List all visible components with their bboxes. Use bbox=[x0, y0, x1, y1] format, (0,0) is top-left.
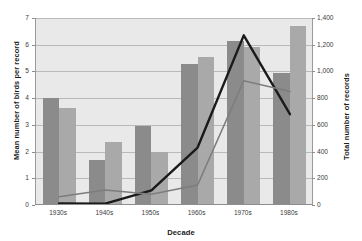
y-axis-right-tickmark bbox=[312, 71, 315, 72]
y-axis-left-tickmark bbox=[32, 152, 35, 153]
y-axis-right-tick-label: 200 bbox=[317, 174, 347, 181]
y-axis-left-tickmark bbox=[32, 205, 35, 206]
y-axis-right-tick-label: 0 bbox=[317, 201, 347, 208]
line-group bbox=[36, 18, 313, 205]
y-axis-left-tickmark bbox=[32, 178, 35, 179]
y-axis-left-tickmark bbox=[32, 18, 35, 19]
y-axis-right-tick-label: 1,400 bbox=[317, 14, 347, 21]
y-axis-left-tick-label: 1 bbox=[3, 174, 29, 181]
line-series bbox=[59, 81, 290, 197]
x-axis-title: Decade bbox=[0, 228, 362, 237]
y-axis-right-tickmark bbox=[312, 98, 315, 99]
y-axis-left-tick-label: 5 bbox=[3, 67, 29, 74]
x-axis-line bbox=[35, 204, 313, 205]
x-axis-tick-label: 1960s bbox=[174, 209, 220, 216]
y-axis-right-tickmark bbox=[312, 178, 315, 179]
y-axis-right-line bbox=[312, 18, 313, 205]
x-axis-tick-label: 1940s bbox=[81, 209, 127, 216]
x-axis-tick-label: 1950s bbox=[127, 209, 173, 216]
x-axis-tick-label: 1980s bbox=[266, 209, 312, 216]
y-axis-right-tick-label: 800 bbox=[317, 94, 347, 101]
y-axis-right-tick-label: 600 bbox=[317, 121, 347, 128]
plot-area bbox=[35, 18, 312, 205]
y-axis-right-tickmark bbox=[312, 152, 315, 153]
line-series bbox=[59, 35, 290, 203]
y-axis-right-tickmark bbox=[312, 125, 315, 126]
x-axis-tick-label: 1970s bbox=[220, 209, 266, 216]
y-axis-right-tick-label: 1,200 bbox=[317, 41, 347, 48]
y-axis-left-tick-label: 0 bbox=[3, 201, 29, 208]
y-axis-left-tick-label: 4 bbox=[3, 94, 29, 101]
chart-figure: Mean number of birds per record Total nu… bbox=[0, 0, 362, 241]
y-axis-left-tickmark bbox=[32, 98, 35, 99]
y-axis-right-tickmark bbox=[312, 18, 315, 19]
y-axis-left-tickmark bbox=[32, 125, 35, 126]
y-axis-left-tickmark bbox=[32, 71, 35, 72]
y-axis-left-tick-label: 6 bbox=[3, 41, 29, 48]
y-axis-left-tick-label: 2 bbox=[3, 148, 29, 155]
y-axis-left-tick-label: 7 bbox=[3, 14, 29, 21]
y-axis-left-tickmark bbox=[32, 45, 35, 46]
y-axis-right-tick-label: 1,000 bbox=[317, 67, 347, 74]
x-axis-tick-label: 1930s bbox=[35, 209, 81, 216]
y-axis-right-tick-label: 400 bbox=[317, 148, 347, 155]
y-axis-right-tickmark bbox=[312, 205, 315, 206]
y-axis-left-tick-label: 3 bbox=[3, 121, 29, 128]
y-axis-right-tickmark bbox=[312, 45, 315, 46]
